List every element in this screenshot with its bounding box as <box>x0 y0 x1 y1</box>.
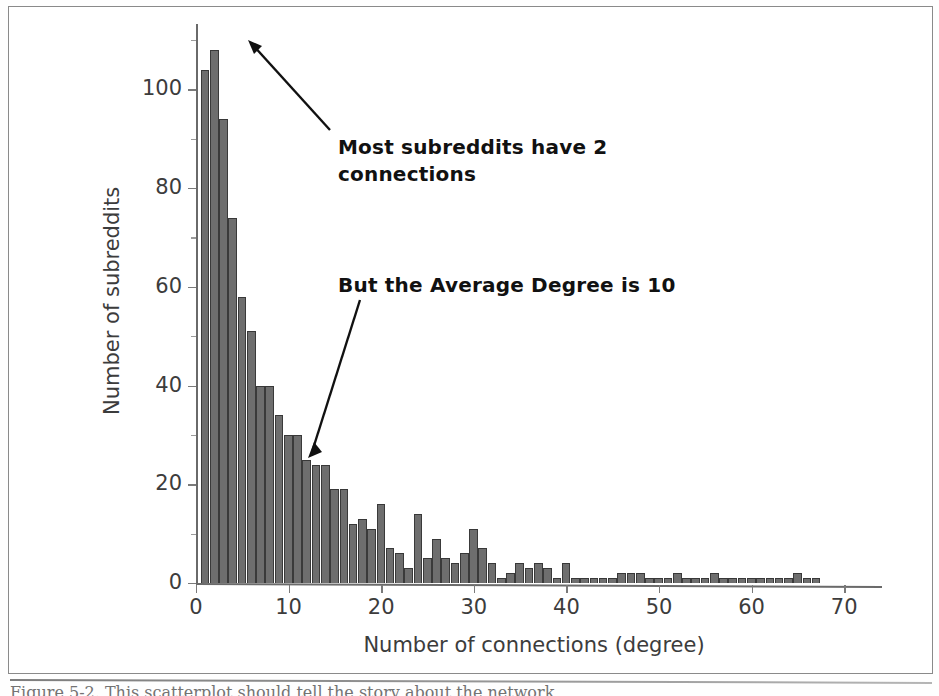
x-axis-tick <box>659 585 660 593</box>
annotation-mean-note: But the Average Degree is 10 <box>338 272 678 299</box>
x-axis-tick <box>752 585 753 593</box>
x-axis-tick-label: 60 <box>722 597 782 618</box>
histogram-bar <box>210 50 219 583</box>
histogram-bar <box>321 465 330 584</box>
x-axis-tick-label: 20 <box>351 597 411 618</box>
histogram-bar <box>367 529 376 583</box>
histogram-bar <box>293 435 302 583</box>
histogram-bar <box>247 331 256 583</box>
figure-caption: Figure 5-2. This scatterplot should tell… <box>10 683 710 696</box>
x-axis-tick <box>474 585 475 593</box>
y-axis-label: Number of subreddits <box>100 186 124 414</box>
histogram-bar <box>302 460 311 583</box>
y-axis-tick-label: 20 <box>124 473 182 494</box>
histogram-bar <box>460 553 469 583</box>
y-axis-line <box>196 24 198 584</box>
histogram-bar <box>432 539 441 583</box>
histogram-bar <box>562 563 571 583</box>
histogram-bar <box>525 568 534 583</box>
y-axis-minor-tick <box>191 40 196 41</box>
scanned-page: Number of subreddits Number of connectio… <box>0 0 939 696</box>
histogram-plot: Number of subreddits Number of connectio… <box>0 0 939 696</box>
histogram-bar <box>349 524 358 583</box>
histogram-bar <box>284 435 293 583</box>
y-axis-tick-label: 0 <box>124 572 182 593</box>
histogram-bar <box>691 578 700 583</box>
histogram-bar <box>497 578 506 583</box>
y-axis-tick-label: 80 <box>124 177 182 198</box>
histogram-bar <box>506 573 515 583</box>
histogram-bar <box>478 548 487 583</box>
histogram-bar <box>580 578 589 583</box>
histogram-bar <box>728 578 737 583</box>
histogram-bar <box>553 578 562 583</box>
y-axis-minor-tick <box>191 435 196 436</box>
y-axis-minor-tick <box>191 534 196 535</box>
histogram-bar <box>404 568 413 583</box>
histogram-bar <box>377 504 386 583</box>
y-axis-minor-tick <box>191 336 196 337</box>
histogram-bar <box>617 573 626 583</box>
y-axis-tick <box>188 484 196 485</box>
histogram-bar <box>358 519 367 583</box>
histogram-bar <box>238 297 247 583</box>
x-axis-line <box>196 583 882 588</box>
histogram-bar <box>627 573 636 583</box>
histogram-bar <box>543 568 552 583</box>
histogram-bar <box>701 578 710 583</box>
x-axis-tick <box>844 585 845 593</box>
x-axis-tick <box>381 585 382 593</box>
histogram-bar <box>515 563 524 583</box>
histogram-bar <box>747 578 756 583</box>
histogram-bar <box>441 558 450 583</box>
histogram-bar <box>340 489 349 583</box>
annotation-peak-note: Most subreddits have 2 connections <box>338 134 638 188</box>
histogram-bar <box>756 578 765 583</box>
y-axis-tick-label: 100 <box>124 78 182 99</box>
histogram-bar <box>719 578 728 583</box>
x-axis-tick-label: 50 <box>629 597 689 618</box>
histogram-bar <box>636 573 645 583</box>
histogram-bar <box>386 548 395 583</box>
x-axis-tick <box>289 585 290 593</box>
histogram-bar <box>275 415 284 583</box>
x-axis-label: Number of connections (degree) <box>196 633 872 657</box>
histogram-bar <box>673 573 682 583</box>
histogram-bar <box>775 578 784 583</box>
histogram-bar <box>738 578 747 583</box>
histogram-bar <box>395 553 404 583</box>
x-axis-tick-label: 30 <box>444 597 504 618</box>
histogram-bar <box>571 578 580 583</box>
x-axis-tick-label: 70 <box>814 597 874 618</box>
y-axis-tick <box>188 287 196 288</box>
y-axis-tick-label: 40 <box>124 375 182 396</box>
histogram-bar <box>766 578 775 583</box>
histogram-bar <box>265 386 274 584</box>
histogram-bar <box>803 578 812 583</box>
histogram-bar <box>654 578 663 583</box>
y-axis-tick-label: 60 <box>124 276 182 297</box>
y-axis-tick <box>188 386 196 387</box>
histogram-bar <box>256 386 265 584</box>
x-axis-tick <box>196 585 197 593</box>
y-axis-tick <box>188 583 196 584</box>
histogram-bar <box>784 578 793 583</box>
histogram-bar <box>201 70 210 584</box>
x-axis-tick <box>566 585 567 593</box>
histogram-bar <box>793 573 802 583</box>
histogram-bar <box>423 558 432 583</box>
histogram-bar <box>682 578 691 583</box>
histogram-bar <box>414 514 423 583</box>
histogram-bar <box>330 489 339 583</box>
histogram-bar <box>645 578 654 583</box>
bar-series <box>196 30 872 583</box>
y-axis-minor-tick <box>191 237 196 238</box>
y-axis-minor-tick <box>191 139 196 140</box>
x-axis-tick-label: 10 <box>259 597 319 618</box>
histogram-bar <box>312 465 321 584</box>
y-axis-tick <box>188 89 196 90</box>
histogram-bar <box>710 573 719 583</box>
histogram-bar <box>590 578 599 583</box>
histogram-bar <box>469 529 478 583</box>
histogram-bar <box>488 563 497 583</box>
